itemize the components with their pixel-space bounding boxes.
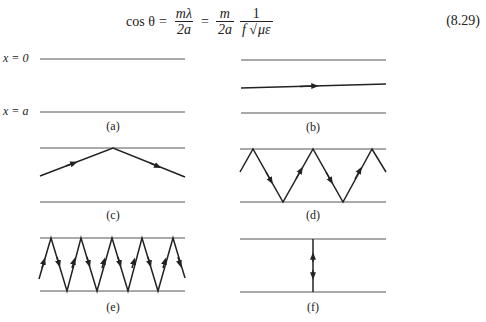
waveguide-ray-diagrams xyxy=(0,0,486,322)
arrow-down-icon xyxy=(326,172,331,181)
panel-a-plates xyxy=(40,59,185,112)
arrow-down-icon xyxy=(266,172,271,181)
arrow-down-icon xyxy=(148,257,150,264)
arrow-up-icon xyxy=(355,170,360,179)
panel-d-plates xyxy=(240,149,386,202)
panel-f-label: (f) xyxy=(307,300,319,315)
panel-b-label: (b) xyxy=(306,120,320,135)
panel-e-ray xyxy=(39,238,185,291)
panel-c-label: (c) xyxy=(106,208,119,223)
arrow-down-icon xyxy=(118,257,120,264)
panel-c-plates xyxy=(40,148,185,202)
panel-c-ray xyxy=(40,148,185,177)
arrow-down-right-icon xyxy=(150,163,158,167)
arrow-up-icon xyxy=(42,261,44,268)
panel-b-ray xyxy=(241,84,386,88)
arrow-down-icon xyxy=(87,257,89,264)
arrow-down-icon xyxy=(57,257,59,264)
panel-d-ray xyxy=(240,149,386,202)
arrow-up-icon xyxy=(296,170,301,179)
panel-d-label: (d) xyxy=(306,208,320,223)
arrow-up-right-icon xyxy=(66,163,74,166)
panel-a-label: (a) xyxy=(106,119,119,134)
panel-e-label: (e) xyxy=(106,300,119,315)
